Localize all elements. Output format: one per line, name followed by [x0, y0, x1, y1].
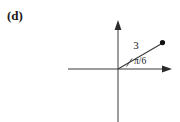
vector-angle-label: π/6 — [134, 56, 146, 66]
vector-magnitude-label: 3 — [133, 39, 139, 51]
y-axis-arrowhead-icon — [115, 20, 122, 30]
y-axis — [115, 20, 122, 122]
angle-leader-line — [127, 59, 133, 67]
x-axis-arrowhead-icon — [162, 66, 172, 73]
vector-diagram-plot: 3 π/6 — [0, 0, 180, 122]
x-axis — [68, 66, 172, 73]
figure-panel: (d) 3 π/6 — [0, 0, 180, 122]
vector-endpoint-dot-icon — [160, 40, 165, 45]
